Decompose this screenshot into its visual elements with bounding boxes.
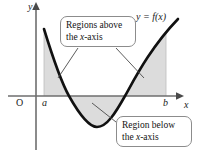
x-axis-label: x: [184, 100, 188, 110]
callout-below-line2-post: -axis: [140, 132, 158, 142]
origin-label: O: [16, 98, 23, 108]
callout-below-line1: Region below: [122, 120, 186, 132]
tick-label-a: a: [42, 98, 47, 108]
callout-above-line2-pre: the: [66, 32, 80, 42]
callout-above-leader-lines: [58, 48, 144, 78]
y-axis-label: y: [28, 2, 32, 12]
y-axis: [32, 2, 40, 150]
callout-region-below: Region below the x-axis: [116, 116, 192, 147]
callout-above-line1: Regions above: [66, 20, 130, 32]
callout-above-line2-post: -axis: [84, 32, 102, 42]
callout-above-line2: the x-axis: [66, 32, 130, 44]
curve-label: y = f(x): [136, 12, 166, 22]
integral-area-figure: y x O a b y = f(x) Regions above the x-a…: [0, 0, 199, 157]
tick-label-b: b: [163, 98, 168, 108]
callout-below-line2: the x-axis: [122, 132, 186, 144]
callout-regions-above: Regions above the x-axis: [60, 16, 136, 47]
callout-below-line2-pre: the: [122, 132, 136, 142]
